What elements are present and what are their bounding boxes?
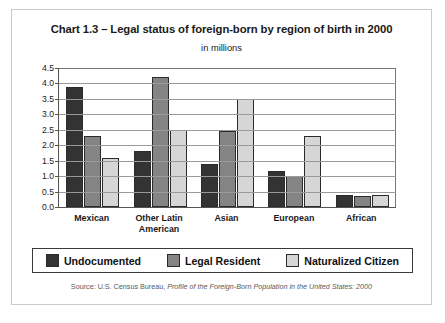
bar-group	[66, 68, 119, 207]
y-axis-tick	[55, 176, 59, 177]
source-title: Profile of the Foreign-Born Population i…	[167, 282, 372, 291]
gridline	[59, 145, 396, 146]
y-tick-label: 1.0	[42, 171, 54, 181]
gridline	[59, 83, 396, 84]
y-axis-tick	[55, 161, 59, 162]
legend-label: Undocumented	[64, 255, 141, 267]
bar	[336, 195, 353, 207]
bar	[152, 77, 169, 207]
bar-group	[336, 68, 389, 207]
y-axis-tick	[55, 130, 59, 131]
y-axis-tick	[55, 192, 59, 193]
bar	[372, 195, 389, 207]
source-note: Source: U.S. Census Bureau, Profile of t…	[12, 282, 431, 291]
bar	[354, 196, 371, 207]
y-tick-label: 0.0	[42, 202, 54, 212]
axis-frame	[58, 68, 396, 208]
gridline	[59, 176, 396, 177]
y-axis-tick	[55, 99, 59, 100]
gridline	[59, 130, 396, 131]
bar	[304, 136, 321, 207]
gridline	[59, 161, 396, 162]
x-tick-label: African	[328, 213, 394, 234]
gridline	[59, 114, 396, 115]
bar-group	[268, 68, 321, 207]
y-tick-label: 4.0	[42, 78, 54, 88]
plot-area: 4.54.03.53.02.52.01.51.00.50.0 MexicanOt…	[58, 68, 406, 218]
y-tick-label: 3.0	[42, 109, 54, 119]
bar-group	[201, 68, 254, 207]
y-tick-label: 2.0	[42, 140, 54, 150]
bar	[170, 130, 187, 207]
x-tick-label: European	[261, 213, 327, 234]
bar-groups	[59, 68, 396, 207]
x-tick-label: Asian	[193, 213, 259, 234]
bar-group	[134, 68, 187, 207]
y-tick-label: 0.5	[42, 187, 54, 197]
bar	[219, 131, 236, 207]
source-prefix: Source: U.S. Census Bureau,	[71, 282, 167, 291]
chart-legend: UndocumentedLegal ResidentNaturalized Ci…	[32, 248, 413, 273]
x-tick-label: Mexican	[59, 213, 125, 234]
bar	[66, 87, 83, 207]
legend-item[interactable]: Naturalized Citizen	[286, 254, 399, 267]
legend-label: Legal Resident	[185, 255, 260, 267]
legend-label: Naturalized Citizen	[304, 255, 399, 267]
legend-item[interactable]: Undocumented	[46, 254, 141, 267]
bar	[84, 136, 101, 207]
gridline	[59, 192, 396, 193]
legend-swatch-icon	[167, 254, 180, 267]
legend-swatch-icon	[286, 254, 299, 267]
chart-card: Chart 1.3 – Legal status of foreign-born…	[11, 9, 432, 305]
x-axis-labels: MexicanOther LatinAmericanAsianEuropeanA…	[58, 213, 395, 234]
y-axis-tick	[55, 83, 59, 84]
y-tick-label: 3.5	[42, 94, 54, 104]
y-axis-tick	[55, 207, 59, 208]
y-tick-label: 2.5	[42, 125, 54, 135]
bar	[102, 158, 119, 207]
bar	[201, 164, 218, 207]
y-tick-label: 1.5	[42, 156, 54, 166]
y-axis-labels: 4.54.03.53.02.52.01.51.00.50.0	[28, 68, 54, 207]
y-axis-tick	[55, 114, 59, 115]
chart-subtitle: in millions	[12, 43, 431, 53]
legend-item[interactable]: Legal Resident	[167, 254, 260, 267]
y-axis-tick	[55, 145, 59, 146]
y-axis-tick	[55, 68, 59, 69]
chart-title: Chart 1.3 – Legal status of foreign-born…	[12, 23, 431, 35]
legend-swatch-icon	[46, 254, 59, 267]
gridline	[59, 99, 396, 100]
x-tick-label: Other LatinAmerican	[126, 213, 192, 234]
y-tick-label: 4.5	[42, 63, 54, 73]
